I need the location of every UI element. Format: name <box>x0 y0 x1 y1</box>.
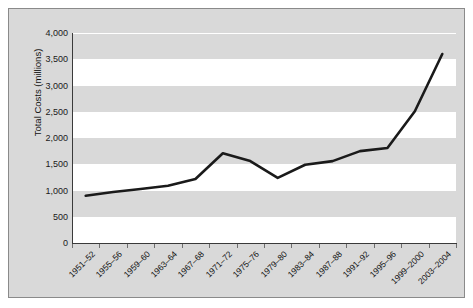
x-axis-tick-labels: 1951–521955–561959–601963–641967–681971–… <box>72 249 457 305</box>
y-axis-tick-label: 0 <box>22 238 68 248</box>
x-axis-tick <box>264 244 265 248</box>
chart-frame: Total Costs (millions) 4,0003,5003,0002,… <box>8 8 465 298</box>
y-axis-tick-label: 500 <box>22 212 68 222</box>
x-axis-tick <box>237 244 238 248</box>
y-axis-tick-label: 2,000 <box>22 133 68 143</box>
y-axis-tick-label: 3,500 <box>22 54 68 64</box>
x-axis-tick-label: 1951–52 <box>46 249 97 300</box>
x-axis-tick <box>72 244 73 248</box>
y-axis-tick-label: 2,500 <box>22 107 68 117</box>
x-axis-tick <box>456 244 457 248</box>
x-axis-tick <box>374 244 375 248</box>
y-axis-tick-label: 1,000 <box>22 186 68 196</box>
x-axis-tick <box>346 244 347 248</box>
y-axis-tick-label: 3,000 <box>22 81 68 91</box>
x-axis-tick <box>127 244 128 248</box>
y-axis-tick-labels: 4,0003,5003,0002,5002,0001,5001,0005000 <box>17 33 68 244</box>
line-series-path <box>86 54 443 196</box>
x-axis-tick <box>182 244 183 248</box>
y-axis-line <box>72 33 73 244</box>
x-axis-tick <box>429 244 430 248</box>
chart-screenshot: Total Costs (millions) 4,0003,5003,0002,… <box>0 0 473 308</box>
plot-area <box>72 33 456 243</box>
y-axis-tick-label: 1,500 <box>22 159 68 169</box>
y-axis-tick-label: 4,000 <box>22 28 68 38</box>
x-axis-tick <box>209 244 210 248</box>
x-axis-tick <box>99 244 100 248</box>
x-axis-tick <box>401 244 402 248</box>
x-axis-tick <box>154 244 155 248</box>
x-axis-tick <box>291 244 292 248</box>
line-series-svg <box>72 33 456 243</box>
x-axis-tick <box>319 244 320 248</box>
